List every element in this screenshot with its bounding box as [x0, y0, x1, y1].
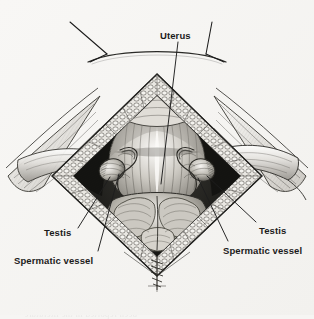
label-spermatic-vessel-right[interactable]: Spermatic vessel [223, 246, 302, 256]
label-testis-left[interactable]: Testis [44, 228, 71, 238]
label-testis-right[interactable]: Testis [259, 226, 286, 236]
label-spermatic-vessel-left[interactable]: Spermatic vessel [14, 256, 93, 266]
label-uterus[interactable]: Uterus [160, 31, 191, 41]
